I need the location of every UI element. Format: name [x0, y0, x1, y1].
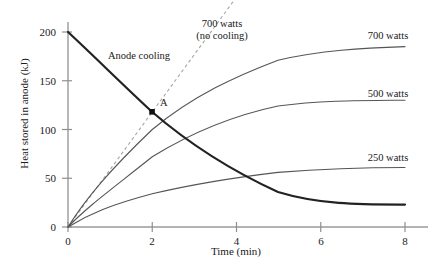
y-tick-label-50: 50 — [28, 173, 56, 184]
series-label-700-watts-no-cooling: 700 watts (no cooling) — [178, 18, 266, 42]
no-cooling-line1: 700 watts — [202, 18, 243, 29]
series-label-250-watts: 250 watts — [352, 152, 424, 164]
x-tick-label-8: 8 — [395, 236, 415, 247]
data-point-label-a: A — [160, 98, 168, 109]
x-tick-label-2: 2 — [142, 236, 162, 247]
data-point-a-marker — [149, 109, 155, 115]
chart-container: 0 50 100 150 200 0 2 4 6 8 Heat stored i… — [0, 0, 448, 264]
series-label-700-watts: 700 watts — [352, 30, 424, 42]
y-tick-label-0: 0 — [28, 222, 56, 233]
y-axis-ticks — [62, 32, 72, 227]
series-label-500-watts: 500 watts — [352, 88, 424, 100]
no-cooling-line2: (no cooling) — [196, 30, 248, 41]
series-label-anode-cooling: Anode cooling — [94, 50, 184, 62]
x-tick-label-6: 6 — [311, 236, 331, 247]
y-axis-title: Heat stored in anode (kJ) — [19, 34, 30, 194]
series-line-250-watts — [68, 168, 405, 228]
x-tick-label-0: 0 — [58, 236, 78, 247]
x-axis-title: Time (min) — [176, 246, 296, 257]
series-line-700-watts — [68, 47, 405, 227]
